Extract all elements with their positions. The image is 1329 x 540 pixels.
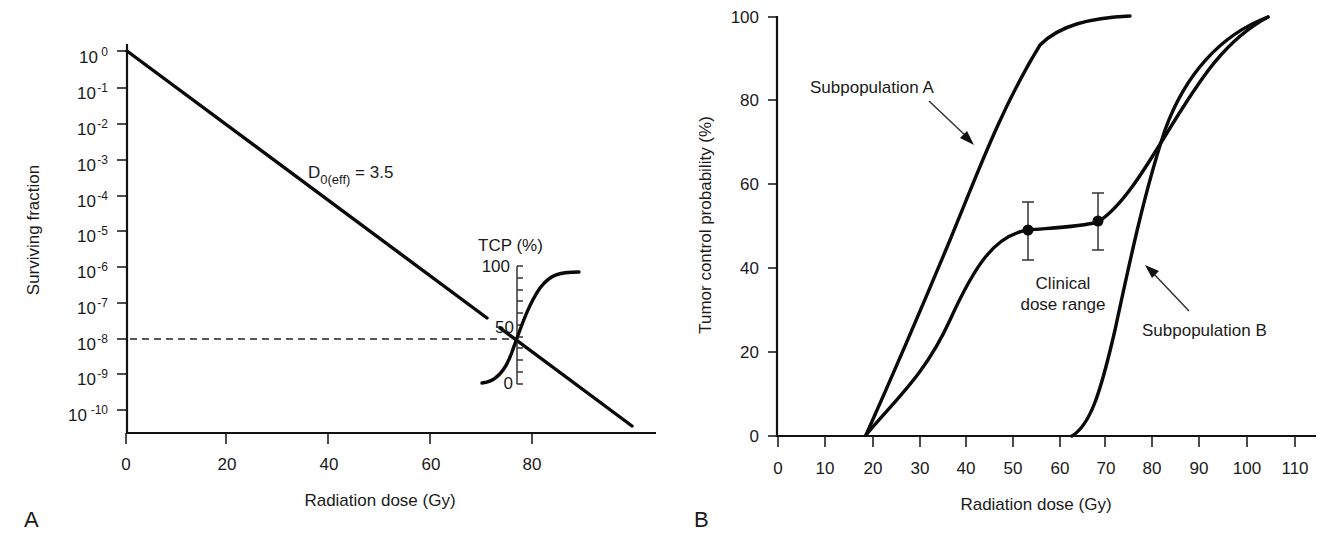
- svg-text:60: 60: [740, 175, 759, 194]
- label-subpopulation-b: Subpopulation B: [1142, 321, 1267, 340]
- svg-text:-2: -2: [97, 117, 108, 131]
- svg-text:70: 70: [1097, 459, 1116, 478]
- svg-text:90: 90: [1190, 459, 1209, 478]
- panel-a-y-tick-labels: 100 10-1 10-2 10-3 10-4 10-5 10-6 10-7 1…: [68, 45, 108, 425]
- panel-a-y-ticks: [117, 51, 127, 410]
- svg-text:100: 100: [482, 257, 510, 276]
- figure: 100 10-1 10-2 10-3 10-4 10-5 10-6 10-7 1…: [0, 0, 1329, 540]
- svg-text:10: 10: [79, 48, 98, 67]
- svg-text:10: 10: [77, 84, 96, 103]
- svg-text:10: 10: [77, 299, 96, 318]
- svg-text:100: 100: [1233, 459, 1261, 478]
- arrow-subpopulation-a: [929, 101, 968, 138]
- svg-text:-6: -6: [97, 260, 108, 274]
- panel-b-x-axis-label: Radiation dose (Gy): [960, 495, 1111, 514]
- svg-text:-1: -1: [97, 81, 108, 95]
- svg-text:0: 0: [101, 45, 108, 59]
- svg-text:0: 0: [504, 374, 513, 393]
- svg-text:20: 20: [740, 343, 759, 362]
- svg-text:20: 20: [218, 455, 237, 474]
- svg-text:50: 50: [1004, 459, 1023, 478]
- panel-b-label: B: [694, 507, 709, 532]
- svg-text:10: 10: [77, 263, 96, 282]
- svg-text:10: 10: [77, 227, 96, 246]
- svg-text:-10: -10: [91, 403, 109, 417]
- data-point-1: [1023, 225, 1034, 236]
- svg-text:50: 50: [495, 318, 514, 337]
- panel-a-survival-line-lower: [500, 328, 632, 426]
- data-point-2: [1093, 216, 1104, 227]
- label-clinical-1: Clinical: [1036, 274, 1091, 293]
- svg-text:10: 10: [77, 120, 96, 139]
- svg-text:30: 30: [911, 459, 930, 478]
- panel-b-y-tick-labels: 100 80 60 40 20 0: [731, 8, 759, 446]
- svg-text:80: 80: [740, 91, 759, 110]
- svg-text:80: 80: [523, 455, 542, 474]
- svg-text:-5: -5: [97, 224, 108, 238]
- panel-a-d0-annotation: D0(eff) = 3.5: [308, 163, 393, 187]
- svg-text:20: 20: [864, 459, 883, 478]
- panel-a-x-ticks: [126, 433, 532, 444]
- svg-text:110: 110: [1281, 459, 1308, 478]
- svg-text:10: 10: [77, 335, 96, 354]
- panel-a-y-axis-label: Surviving fraction: [24, 165, 43, 295]
- svg-text:0: 0: [773, 459, 782, 478]
- svg-text:10: 10: [77, 370, 96, 389]
- curve-subpopulation-b: [1072, 17, 1268, 436]
- inset-title: TCP (%): [478, 236, 543, 255]
- svg-text:0: 0: [750, 427, 759, 446]
- panel-b-y-axis-label: Tumor control probability (%): [696, 116, 715, 334]
- svg-text:-7: -7: [97, 296, 108, 310]
- svg-text:10: 10: [77, 192, 96, 211]
- svg-text:10: 10: [77, 156, 96, 175]
- svg-text:0: 0: [121, 455, 130, 474]
- svg-text:-4: -4: [97, 189, 108, 203]
- panel-b-x-tick-labels: 0 10 20 30 40 50 60 70 80 90 100 110: [773, 459, 1308, 478]
- svg-text:40: 40: [320, 455, 339, 474]
- panel-a-inset-tcp: TCP (%) 100 50 0: [478, 236, 579, 393]
- svg-text:-8: -8: [97, 332, 108, 346]
- svg-text:10: 10: [816, 459, 835, 478]
- panel-b: 100 80 60 40 20 0 0 10 20 30 4: [694, 8, 1316, 532]
- panel-b-x-ticks: [778, 436, 1295, 447]
- svg-text:-9: -9: [97, 367, 108, 381]
- panel-a-x-axis-label: Radiation dose (Gy): [304, 491, 455, 510]
- svg-text:60: 60: [422, 455, 441, 474]
- arrow-subpopulation-b: [1153, 273, 1189, 311]
- svg-text:40: 40: [957, 459, 976, 478]
- panel-a-x-tick-labels: 0 20 40 60 80: [121, 455, 541, 474]
- svg-text:80: 80: [1143, 459, 1162, 478]
- svg-text:100: 100: [731, 8, 759, 27]
- svg-text:40: 40: [740, 259, 759, 278]
- panel-a: 100 10-1 10-2 10-3 10-4 10-5 10-6 10-7 1…: [24, 44, 656, 532]
- panel-b-y-ticks: [768, 17, 777, 436]
- svg-text:-3: -3: [97, 153, 108, 167]
- svg-text:10: 10: [68, 406, 87, 425]
- label-clinical-2: dose range: [1020, 295, 1105, 314]
- panel-a-label: A: [24, 507, 39, 532]
- label-subpopulation-a: Subpopulation A: [810, 78, 934, 97]
- panel-a-survival-line-upper: [127, 51, 487, 318]
- svg-text:60: 60: [1051, 459, 1070, 478]
